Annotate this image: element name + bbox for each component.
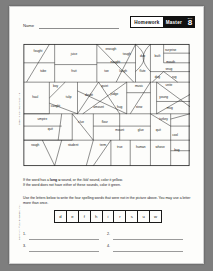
answer-row: 3. bbox=[23, 242, 107, 254]
letter-bank-cell: r bbox=[114, 211, 126, 222]
letter-bank-cell: i bbox=[103, 211, 115, 222]
maze-word[interactable]: fought bbox=[34, 49, 43, 53]
letter-bank-cell: f bbox=[79, 211, 91, 222]
maze-word[interactable]: term bbox=[100, 143, 107, 147]
maze-word[interactable]: true bbox=[117, 145, 123, 149]
maze-word[interactable]: tube bbox=[40, 69, 46, 73]
letter-bank-cell: w bbox=[150, 211, 161, 222]
answer-number: 3. bbox=[23, 244, 26, 248]
answer-row: 4. bbox=[107, 242, 191, 254]
maze-word[interactable]: surprise bbox=[165, 48, 176, 52]
badge-number: 8 bbox=[185, 18, 195, 27]
maze-word[interactable]: bug bbox=[174, 148, 180, 152]
maze-word[interactable]: fruit bbox=[71, 69, 76, 73]
margin-copyright-text: Copyright © Zaner-Bloser, Inc. bbox=[18, 205, 20, 240]
maze-word[interactable]: flour bbox=[102, 120, 108, 124]
instruction-line-3: Use the letters below to write the four … bbox=[23, 196, 135, 200]
answer-write-line[interactable] bbox=[29, 251, 99, 252]
instruction-block-1: If the word has a long u sound, or the /… bbox=[23, 178, 191, 187]
maze-word[interactable]: cool bbox=[172, 133, 178, 137]
maze-word[interactable]: umpire bbox=[38, 117, 48, 121]
letter-bank-cell: s bbox=[126, 211, 138, 222]
homework-master-badge: Homework Master BLM 8 bbox=[130, 16, 195, 28]
maze-word[interactable]: rough bbox=[31, 143, 39, 147]
maze-word[interactable]: built bbox=[155, 54, 161, 58]
maze-word[interactable]: boy bbox=[53, 84, 59, 88]
maze-word[interactable]: tough bbox=[123, 52, 131, 56]
answer-row: 1. bbox=[23, 230, 107, 242]
maze-word[interactable]: flute bbox=[140, 69, 146, 73]
maze-word[interactable]: doubt bbox=[85, 93, 93, 97]
maze-word[interactable]: juice bbox=[70, 52, 78, 56]
name-field-row: Name bbox=[23, 20, 119, 30]
maze-word[interactable]: quit bbox=[48, 127, 53, 131]
maze-word[interactable]: amount bbox=[93, 105, 104, 109]
coloring-maze-puzzle[interactable]: foughtjuiceenoughtoughduebuiltsurprisemo… bbox=[23, 35, 190, 175]
maze-word-layer: foughtjuiceenoughtoughduebuiltsurprisemo… bbox=[31, 47, 179, 152]
answer-number: 4. bbox=[107, 244, 110, 248]
maze-word[interactable]: rug bbox=[172, 75, 177, 79]
answer-number: 2. bbox=[107, 232, 110, 236]
instruction-block-2: Use the letters below to write the four … bbox=[23, 196, 191, 205]
maze-word[interactable]: glue bbox=[138, 128, 144, 132]
homework-label: Homework bbox=[130, 16, 163, 28]
maze-word[interactable]: quit bbox=[156, 128, 161, 132]
maze-word[interactable]: judge bbox=[110, 92, 119, 96]
maze-word[interactable]: snug bbox=[165, 67, 172, 71]
maze-word[interactable]: music bbox=[135, 84, 144, 88]
maze-word[interactable]: haul bbox=[32, 95, 38, 99]
badge-number-box: BLM 8 bbox=[185, 16, 195, 28]
maze-word[interactable]: young bbox=[159, 95, 168, 99]
margin-unit-text: Spelling Connections Unit 8 bbox=[18, 93, 20, 125]
maze-word[interactable]: due bbox=[140, 54, 146, 58]
maze-word[interactable]: mouth bbox=[166, 60, 175, 64]
letter-bank-cell: e bbox=[67, 211, 79, 222]
maze-svg: foughtjuiceenoughtoughduebuiltsurprisemo… bbox=[23, 35, 190, 175]
maze-word[interactable]: quiet bbox=[101, 84, 108, 88]
maze-word[interactable]: laugh bbox=[119, 69, 127, 73]
maze-word[interactable]: clue bbox=[78, 120, 84, 124]
maze-word[interactable]: tulip bbox=[66, 95, 72, 99]
letter-bank-cell: u bbox=[138, 211, 150, 222]
answer-lines: 1.2.3.4. bbox=[23, 230, 191, 254]
worksheet-page: Spelling Connections Unit 8 Copyright © … bbox=[9, 6, 204, 264]
letter-bank-cell: d bbox=[55, 211, 67, 222]
instruction-line-2: If the word does not have either of thes… bbox=[23, 183, 121, 187]
instruction-line-1a: If the word has a bbox=[23, 178, 50, 182]
maze-word[interactable]: toe bbox=[104, 69, 109, 73]
name-input-line[interactable] bbox=[39, 28, 119, 29]
maze-word[interactable]: stew bbox=[136, 105, 143, 109]
instruction-line-1b: sound, or the /ōō/ sound, color it yello… bbox=[60, 178, 122, 182]
maze-word[interactable]: student bbox=[68, 143, 78, 147]
maze-word[interactable]: enough bbox=[106, 47, 117, 51]
answer-write-line[interactable] bbox=[29, 239, 99, 240]
maze-word[interactable]: hug bbox=[117, 105, 123, 109]
maze-word[interactable]: naught bbox=[110, 60, 120, 64]
answer-write-line[interactable] bbox=[113, 239, 183, 240]
master-label: Master bbox=[163, 16, 185, 28]
answer-write-line[interactable] bbox=[113, 251, 183, 252]
maze-word[interactable]: mount bbox=[115, 128, 124, 132]
letter-bank-cell: h bbox=[91, 211, 103, 222]
answer-number: 1. bbox=[23, 232, 26, 236]
maze-word[interactable]: whose bbox=[156, 145, 165, 149]
maze-word[interactable]: caught bbox=[51, 104, 61, 108]
instruction-bold-long-u: long u bbox=[50, 178, 61, 182]
maze-word[interactable]: human bbox=[136, 145, 146, 149]
name-label: Name bbox=[23, 23, 34, 28]
maze-word[interactable]: dug bbox=[155, 75, 161, 79]
maze-word[interactable]: turkey bbox=[159, 117, 168, 121]
maze-word[interactable]: mug bbox=[167, 106, 173, 110]
answer-row: 2. bbox=[107, 230, 191, 242]
letter-bank: defhirsuw bbox=[54, 210, 162, 223]
maze-word[interactable]: unite bbox=[165, 83, 172, 87]
